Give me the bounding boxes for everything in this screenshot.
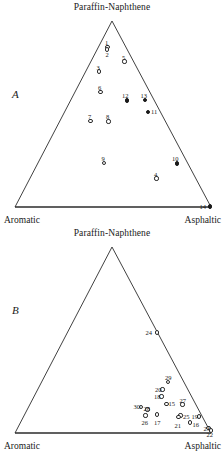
data-point-label-8: 8 xyxy=(106,114,109,121)
data-point-label-21: 21 xyxy=(175,423,182,430)
data-point-label-7: 7 xyxy=(88,114,91,121)
data-point-label-18: 18 xyxy=(154,394,161,401)
data-point-label-15: 15 xyxy=(169,401,176,408)
data-point-label-1: 1 xyxy=(105,40,108,47)
corner-label-asphaltic-a: Asphaltic xyxy=(185,215,221,225)
data-point-label-2: 2 xyxy=(106,52,109,59)
data-point-label-22: 22 xyxy=(207,432,214,439)
data-point-17 xyxy=(155,412,159,416)
triangle-outline-a xyxy=(0,0,224,226)
data-point-label-25: 25 xyxy=(183,414,190,421)
data-point-24 xyxy=(155,330,159,334)
data-point-label-19: 19 xyxy=(192,414,199,421)
data-point-label-9: 9 xyxy=(102,156,105,163)
data-point-label-29: 29 xyxy=(165,375,172,382)
data-point-label-14: 14 xyxy=(200,204,207,211)
data-point-label-5: 5 xyxy=(122,55,125,62)
data-point-label-26: 26 xyxy=(142,420,149,427)
data-point-21 xyxy=(176,415,180,419)
data-point-14 xyxy=(208,204,212,208)
data-point-16 xyxy=(188,420,192,424)
data-point-label-16: 16 xyxy=(193,422,200,429)
ternary-panel-b: Paraffin-Naphthene B 2429201815273028261… xyxy=(0,226,224,452)
ternary-panel-a: Paraffin-Naphthene A 1235612131178910414… xyxy=(0,0,224,226)
data-point-label-6: 6 xyxy=(98,85,101,92)
data-point-label-28: 28 xyxy=(144,406,151,413)
data-point-label-12: 12 xyxy=(122,93,129,100)
data-point-label-24: 24 xyxy=(146,330,153,337)
data-point-label-13: 13 xyxy=(141,93,148,100)
data-point-26 xyxy=(143,413,147,417)
data-point-label-17: 17 xyxy=(154,420,161,427)
data-point-label-11: 11 xyxy=(151,109,157,116)
data-point-label-3: 3 xyxy=(97,65,100,72)
corner-label-aromatic-b: Aromatic xyxy=(4,441,40,451)
data-point-label-10: 10 xyxy=(172,156,179,163)
corner-label-asphaltic-b: Asphaltic xyxy=(185,441,221,451)
data-point-label-4: 4 xyxy=(154,172,157,179)
data-point-label-27: 27 xyxy=(180,398,187,405)
triangle-outline-b xyxy=(0,226,224,452)
corner-label-aromatic-a: Aromatic xyxy=(4,215,40,225)
data-point-label-30: 30 xyxy=(134,404,141,411)
